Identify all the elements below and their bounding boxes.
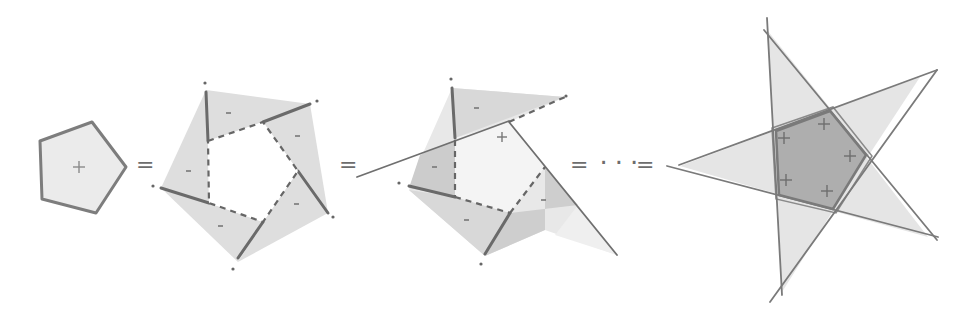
equals-sign-3: = xyxy=(570,154,588,176)
equals-sign-4: = xyxy=(636,154,654,176)
equals-sign-1: = xyxy=(136,154,154,176)
equals-sign-2: = xyxy=(339,154,357,176)
star-panel xyxy=(667,18,938,302)
exploded-panel xyxy=(151,81,334,270)
triangle-left xyxy=(161,90,209,203)
pentagon-panel xyxy=(40,122,126,213)
